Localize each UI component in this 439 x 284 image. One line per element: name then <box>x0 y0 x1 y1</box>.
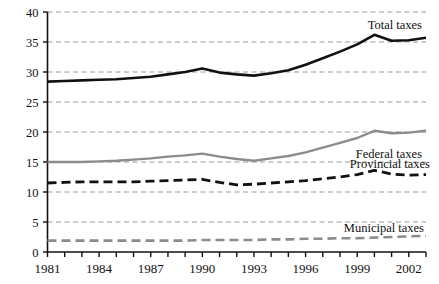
series-inline-labels: Total taxesFederal taxesProvincial taxes… <box>344 18 430 235</box>
x-axis-ticks: 19811984198719901993199619992002 <box>35 252 427 276</box>
y-tick-label: 15 <box>26 156 39 170</box>
series-line <box>48 236 427 241</box>
y-tick-label: 10 <box>26 186 39 200</box>
x-tick-label: 1990 <box>189 261 215 276</box>
chart-canvas: 0510152025303540 19811984198719901993199… <box>0 0 439 284</box>
x-tick-label: 1999 <box>344 261 370 276</box>
x-tick-label: 1987 <box>138 261 165 276</box>
y-tick-label: 0 <box>32 246 38 260</box>
x-tick-label: 1996 <box>293 261 320 276</box>
series-line <box>48 170 427 184</box>
y-axis-ticks: 0510152025303540 <box>26 6 48 260</box>
x-tick-label: 1981 <box>35 261 61 276</box>
series-label-provincial: Provincial taxes <box>350 157 430 171</box>
series-label-municipal: Municipal taxes <box>344 221 424 235</box>
y-tick-label: 20 <box>26 126 39 140</box>
series-lines <box>48 35 427 241</box>
gridlines <box>48 12 427 222</box>
y-tick-label: 25 <box>26 96 39 110</box>
y-tick-label: 30 <box>26 66 39 80</box>
x-tick-label: 1984 <box>86 261 113 276</box>
x-tick-label: 2002 <box>396 261 422 276</box>
y-tick-label: 40 <box>26 6 39 20</box>
series-label-total: Total taxes <box>368 18 422 32</box>
y-tick-label: 5 <box>32 216 38 230</box>
y-tick-label: 35 <box>26 36 39 50</box>
x-tick-label: 1993 <box>241 261 267 276</box>
tax-line-chart: $2003 thousands 0510152025303540 1981198… <box>0 0 439 284</box>
